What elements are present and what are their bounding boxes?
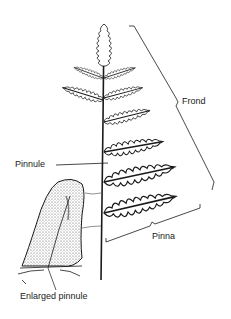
frond-bracket <box>129 26 214 190</box>
enlarged-pinnule-label: Enlarged pinnule <box>20 292 88 301</box>
enlarge-connector <box>82 193 101 228</box>
frond-label: Frond <box>182 97 206 106</box>
enlarged-pinnule-drawing <box>18 179 84 284</box>
pinnule-leader <box>56 163 108 165</box>
fern-tip <box>97 24 112 66</box>
pinnule-label: Pinnule <box>15 160 45 169</box>
enlarged-pinnule-leader <box>48 268 56 290</box>
pinna-label: Pinna <box>152 232 175 241</box>
